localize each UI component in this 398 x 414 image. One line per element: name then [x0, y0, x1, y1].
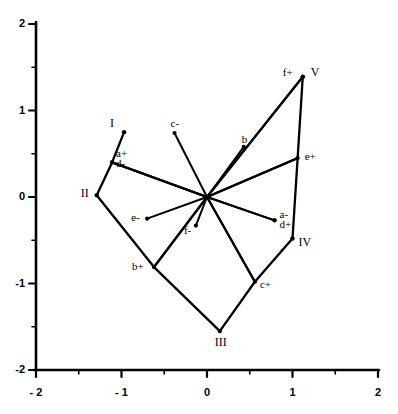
vertex-dot-IV [290, 236, 294, 240]
vertex-dot-I [122, 130, 126, 134]
vertex-dot-II [95, 193, 99, 197]
vector-tip-c+ [253, 280, 257, 284]
data-layer [95, 75, 305, 334]
segment-c+-to-IV [255, 239, 293, 282]
x-tick-label-1: - 1 [115, 387, 128, 398]
x-tick-label-3: 1 [289, 387, 295, 398]
vertex-label-III: III [215, 337, 227, 348]
vertex-label-II: II [81, 188, 89, 199]
x-tick-label-4: 2 [375, 387, 381, 398]
y-tick-label-0: -2 [15, 364, 25, 375]
vector-tip-e+ [296, 156, 300, 160]
vertex-dot-V [301, 75, 305, 79]
chart-container: - 2- 1012-2-1012a+d-a-d+bb+c-c+e+e-f+f-I… [0, 0, 398, 414]
vector-tip-c- [172, 131, 176, 135]
y-tick-label-1: -1 [15, 278, 25, 289]
vector-c+ [207, 197, 255, 282]
vector-label-b: b [242, 134, 248, 145]
vertex-label-I: I [110, 118, 114, 129]
vector-label-f-: f- [184, 225, 191, 236]
segment-a+d--to-II [97, 162, 112, 195]
vector-label-e-: e- [131, 212, 140, 223]
vector-tip-e- [145, 217, 149, 221]
vector-f+ [207, 77, 303, 197]
vector-tip-b+ [152, 265, 156, 269]
vector-label-e+: e+ [305, 151, 316, 162]
vertex-dot-III [218, 329, 222, 333]
vector-label-b+: b+ [132, 261, 144, 272]
x-tick-label-0: - 2 [30, 387, 43, 398]
segment-II-to-b+ [97, 195, 154, 267]
x-tick-label-2: 0 [204, 387, 210, 398]
segment-IV-to-e+ [293, 158, 298, 238]
segment-b+-to-III [154, 267, 220, 331]
vector-label-f+: f+ [283, 67, 293, 78]
vector-label-c-: c- [171, 118, 180, 129]
vector-tip-d+ [272, 218, 276, 222]
vector-tip-d- [110, 160, 114, 164]
y-tick-label-3: 1 [19, 105, 25, 116]
vector-tip-f- [194, 223, 198, 227]
vector-label-d-: d- [116, 158, 125, 169]
biplot-svg [0, 0, 398, 414]
vector-label-c+: c+ [260, 279, 271, 290]
vertex-label-IV: IV [299, 237, 312, 248]
y-tick-label-2: 0 [19, 191, 25, 202]
segment-e+-to-V [298, 77, 303, 158]
segment-III-to-c+ [220, 282, 255, 331]
vertex-label-V: V [311, 67, 320, 78]
vector-label-d+: d+ [280, 219, 292, 230]
y-tick-label-4: 2 [19, 18, 25, 29]
